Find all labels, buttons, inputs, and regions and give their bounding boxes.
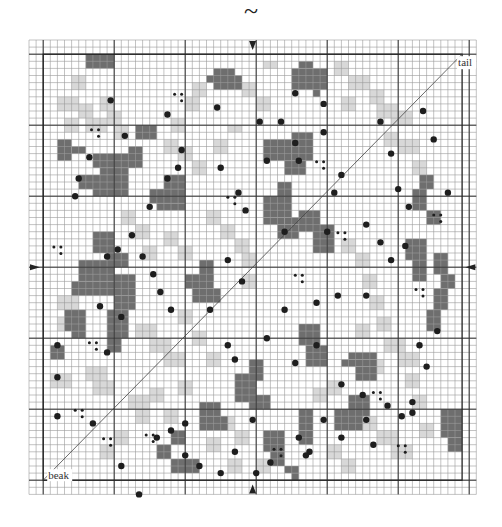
stitch-dot <box>107 97 113 103</box>
stitch-dot <box>182 420 188 426</box>
edge-marker-left-icon <box>30 264 40 270</box>
stitch-dot <box>434 328 440 334</box>
dark-block <box>292 473 299 480</box>
stitch-dot <box>207 307 213 313</box>
stitch-dot <box>182 452 188 458</box>
stitch-dot <box>313 300 319 306</box>
stitch-dot <box>296 434 302 440</box>
stitch-dot <box>388 257 394 263</box>
stitch-dot <box>150 271 156 277</box>
stitch-dot <box>235 189 241 195</box>
stitch-dot <box>139 253 145 259</box>
stitch-dot <box>86 154 92 160</box>
stitch-dot <box>320 417 326 423</box>
stitch-dot <box>370 442 376 448</box>
dark-block <box>93 232 114 253</box>
stitch-dot <box>281 307 287 313</box>
stitch-dot <box>363 221 369 227</box>
stitch-dot <box>225 342 231 348</box>
stitch-dot <box>338 381 344 387</box>
stitch-dot <box>242 207 248 213</box>
stitch-dot <box>445 189 451 195</box>
dark-block <box>341 360 377 367</box>
stitch-dot <box>225 257 231 263</box>
tail-label: tail <box>458 56 472 68</box>
stitch-dot <box>399 413 405 419</box>
stitch-dot <box>90 420 96 426</box>
dark-block <box>214 68 235 89</box>
stitch-dot <box>395 186 401 192</box>
stitch-dot <box>232 356 238 362</box>
stitch-dot <box>296 158 302 164</box>
stitch-dot <box>363 292 369 298</box>
stitch-dot <box>164 111 170 117</box>
stitch-dot <box>423 363 429 369</box>
stitch-dot <box>313 342 319 348</box>
stitch-dot <box>97 303 103 309</box>
stitch-dot <box>338 172 344 178</box>
stitch-dot <box>129 232 135 238</box>
stitch-dot <box>168 307 174 313</box>
stitch-dot <box>104 253 110 259</box>
stitch-dot <box>292 90 298 96</box>
stitch-dot <box>420 108 426 114</box>
dark-block <box>114 274 135 295</box>
stitch-dot <box>267 459 273 465</box>
stitch-dot <box>292 360 298 366</box>
stitch-dot <box>402 243 408 249</box>
stitch-dot <box>292 140 298 146</box>
stitch-dot <box>122 133 128 139</box>
stitch-dot <box>377 239 383 245</box>
stitch-dot <box>218 165 224 171</box>
stitch-dot <box>320 101 326 107</box>
stitch-dot <box>257 118 263 124</box>
dark-block <box>65 310 86 331</box>
stitch-dot <box>249 417 255 423</box>
stitch-dot <box>157 289 163 295</box>
stitch-dot <box>196 463 202 469</box>
dark-block <box>313 90 320 97</box>
dark-block <box>263 218 284 225</box>
stitch-dot <box>416 342 422 348</box>
stitch-dot <box>377 118 383 124</box>
stitch-dot <box>239 278 245 284</box>
stitch-dot <box>253 470 259 476</box>
dark-block <box>292 68 328 89</box>
edge-marker-right-icon <box>465 264 475 270</box>
stitch-dot <box>278 118 284 124</box>
stitch-dot <box>384 402 390 408</box>
stitch-pattern-chart: tail beak <box>0 0 502 527</box>
stitch-dot <box>320 129 326 135</box>
stitch-dot <box>406 204 412 210</box>
stitch-dot <box>168 427 174 433</box>
stitch-dot <box>303 452 309 458</box>
stitch-dot <box>388 150 394 156</box>
stitch-dot <box>409 399 415 405</box>
beak-label: beak <box>48 469 69 481</box>
stitch-dot <box>281 229 287 235</box>
stitch-dot <box>218 470 224 476</box>
stitch-dot <box>324 229 330 235</box>
dark-block <box>349 395 370 416</box>
stitch-dot <box>54 374 60 380</box>
stitch-dot <box>164 175 170 181</box>
stitch-dot <box>118 463 124 469</box>
stitch-dot <box>264 158 270 164</box>
stitch-dot <box>104 349 110 355</box>
stitch-dot <box>264 335 270 341</box>
stitch-dot <box>136 491 142 497</box>
dark-block <box>405 239 426 260</box>
stitch-dot <box>232 449 238 455</box>
stitch-dot <box>175 165 181 171</box>
stitch-dot <box>115 246 121 252</box>
dark-block <box>299 324 320 345</box>
stitch-dot <box>118 314 124 320</box>
stitch-dot <box>178 147 184 153</box>
stitch-dot <box>54 342 60 348</box>
stitch-dot <box>360 392 366 398</box>
stitch-dot <box>54 413 60 419</box>
stitch-dot <box>363 417 369 423</box>
stitch-dot <box>335 292 341 298</box>
stitch-dot <box>214 104 220 110</box>
dark-block <box>93 189 128 196</box>
